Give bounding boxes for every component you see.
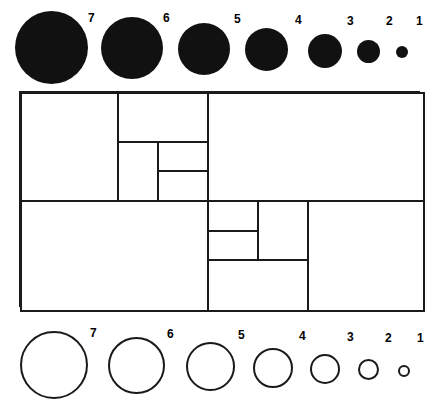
square-k — [207, 259, 309, 312]
circle-label-3: 3 — [347, 331, 354, 343]
circle-label-1: 1 — [417, 332, 424, 344]
circle-6 — [108, 337, 165, 394]
circle-label-7: 7 — [90, 327, 97, 339]
disc-2 — [357, 40, 380, 63]
disc-label-1: 1 — [416, 15, 423, 27]
square-l — [307, 200, 425, 312]
disc-label-5: 5 — [234, 13, 241, 25]
disc-3 — [308, 34, 342, 68]
disc-5 — [178, 23, 230, 75]
square-b — [117, 92, 209, 143]
circle-5 — [186, 342, 235, 391]
disc-1 — [396, 46, 408, 58]
circle-label-2: 2 — [385, 332, 392, 344]
dissection-outer-rectangle — [19, 91, 420, 307]
square-j — [207, 230, 259, 261]
circle-1 — [398, 365, 410, 377]
circle-label-6: 6 — [167, 328, 174, 340]
disc-label-7: 7 — [88, 12, 95, 24]
disc-label-6: 6 — [163, 12, 170, 24]
circle-4 — [253, 348, 293, 388]
square-g — [20, 200, 209, 312]
square-h — [207, 200, 259, 232]
square-f — [157, 170, 209, 202]
disc-4 — [245, 28, 288, 71]
disc-6 — [101, 17, 163, 79]
circle-3 — [310, 354, 340, 384]
circle-7 — [20, 331, 88, 399]
square-e — [157, 141, 209, 172]
square-a — [20, 92, 119, 202]
disc-label-3: 3 — [347, 15, 354, 27]
circle-2 — [358, 359, 379, 380]
circle-label-5: 5 — [238, 329, 245, 341]
disc-label-2: 2 — [386, 15, 393, 27]
disc-7 — [15, 11, 88, 84]
circle-label-4: 4 — [299, 330, 306, 342]
square-i — [257, 200, 309, 261]
squared-rectangle-figure: 7 6 5 4 3 2 1 — [0, 0, 439, 411]
outline-circle-scale: 7 6 5 4 3 2 1 — [0, 318, 439, 411]
square-c — [207, 92, 425, 202]
disc-label-4: 4 — [295, 14, 302, 26]
square-d — [117, 141, 159, 202]
filled-disc-scale: 7 6 5 4 3 2 1 — [0, 0, 439, 90]
